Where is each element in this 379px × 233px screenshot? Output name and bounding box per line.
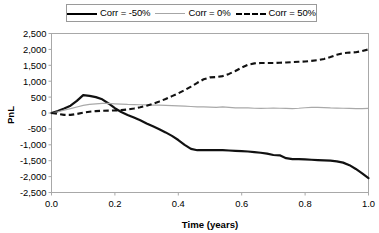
x-tick-label: 1.0: [362, 198, 375, 209]
y-axis-tick-labels: 2,5002,0001,5001,0005000-500-1,000-1,500…: [20, 28, 47, 198]
x-tick-label: 0.6: [235, 198, 248, 209]
x-tick-label: 0.0: [45, 198, 58, 209]
y-tick-label: 0: [41, 107, 46, 118]
data-series-layer: [52, 49, 369, 178]
y-tick-label: 2,500: [23, 28, 46, 39]
y-tick-label: -1,500: [20, 155, 47, 166]
y-tick-label: 2,000: [23, 44, 46, 55]
y-tick-label: 1,500: [23, 60, 46, 71]
y-tick-label: -2,000: [20, 171, 47, 182]
y-tick-label: -2,500: [20, 187, 47, 198]
x-tick-label: 0.8: [299, 198, 312, 209]
series-line-corr-50: [52, 49, 369, 115]
y-tick-label: -500: [28, 123, 47, 134]
y-tick-label: 1,000: [23, 76, 46, 87]
y-tick-label: -1,000: [20, 139, 47, 150]
x-tick-label: 0.2: [108, 198, 121, 209]
x-axis-title: Time (years): [182, 219, 238, 230]
y-axis-title: PnL: [5, 106, 16, 124]
x-tick-label: 0.4: [172, 198, 185, 209]
x-axis-tick-labels: 0.00.20.40.60.81.0: [45, 198, 375, 209]
plot-frame: [52, 34, 369, 193]
y-tick-label: 500: [31, 92, 47, 103]
chart-plot: 2,5002,0001,5001,0005000-500-1,000-1,500…: [0, 0, 379, 233]
chart-container: Corr = -50% Corr = 0% Corr = 50% 2,5002,…: [0, 0, 379, 233]
